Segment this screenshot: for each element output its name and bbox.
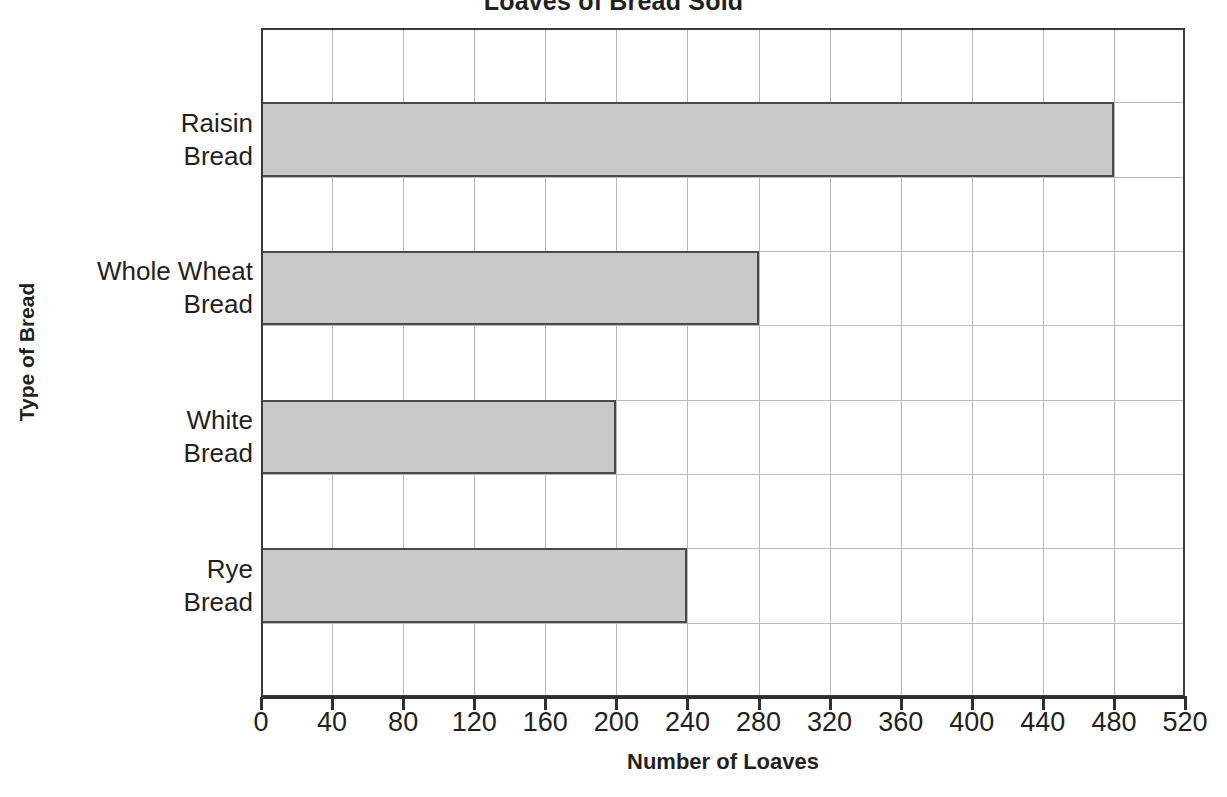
horizontal-gridline — [261, 325, 1185, 326]
category-label-line: Bread — [8, 437, 253, 470]
chart-figure: Loaves of Bread Sold Type of Bread 04080… — [0, 0, 1227, 797]
horizontal-gridline — [261, 474, 1185, 475]
horizontal-gridline — [261, 623, 1185, 624]
x-axis-title: Number of Loaves — [261, 749, 1185, 775]
category-label-line: Bread — [8, 288, 253, 321]
vertical-gridline — [1114, 28, 1115, 697]
bar — [261, 251, 759, 325]
x-tick-label: 520 — [1140, 707, 1227, 738]
category-label-line: Bread — [8, 586, 253, 619]
plot-area — [261, 28, 1185, 697]
category-label-line: Bread — [8, 140, 253, 173]
bar — [261, 102, 1114, 176]
category-label-line: Raisin — [8, 107, 253, 140]
horizontal-gridline — [261, 177, 1185, 178]
bar — [261, 400, 616, 474]
chart-title: Loaves of Bread Sold — [0, 0, 1227, 16]
category-label-line: Whole Wheat — [8, 255, 253, 288]
x-axis-line — [261, 696, 1187, 699]
category-label-line: White — [8, 404, 253, 437]
category-label: Whole WheatBread — [8, 255, 253, 322]
category-label: RaisinBread — [8, 107, 253, 174]
category-label-line: Rye — [8, 553, 253, 586]
bar — [261, 548, 687, 622]
category-label: WhiteBread — [8, 404, 253, 471]
category-label: RyeBread — [8, 553, 253, 620]
